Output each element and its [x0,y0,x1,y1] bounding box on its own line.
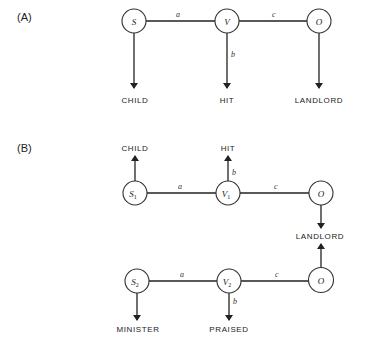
edge-label-b: b [233,297,237,306]
node-v: V [215,9,239,33]
edge-label-a: a [180,270,184,279]
concept-landlord: LANDLORD [295,96,343,105]
panel-a: (A) a c b S V O CHILD HIT LANDLORD [17,9,343,105]
edge-label-a: a [178,182,182,191]
edge-label-c: c [274,182,278,191]
edge-label-b: b [232,168,236,177]
node-v1-sub: 1 [227,194,230,200]
edge-label-b: b [231,50,235,59]
concept-hit: HIT [221,144,236,153]
concept-praised: PRAISED [209,325,248,334]
concept-hit: HIT [220,96,235,105]
node-o-bottom-text: O [318,276,325,286]
node-o-top-text: O [318,189,325,199]
diagram-canvas: (A) a c b S V O CHILD HIT LANDLORD (B) [0,0,369,348]
node-s-text: S [132,17,137,27]
node-s2: S2 [125,269,149,293]
panel-b-row-2: a c b S2 V2 O [116,244,333,334]
concept-child: CHILD [121,96,148,105]
node-o-bottom: O [309,268,334,293]
node-v2-sub: 2 [228,282,231,288]
panel-b: (B) a c b S1 V1 [17,142,344,334]
edge-label-a: a [176,10,180,19]
node-o-text: O [316,17,323,27]
panel-a-label: (A) [17,11,32,23]
edge-label-c: c [272,10,276,19]
node-v2: V2 [217,269,241,293]
edge-label-c: c [275,270,279,279]
panel-b-row-1: a c b S1 V1 O [121,144,333,228]
node-s2-sub: 2 [136,282,139,288]
node-v1: V1 [216,181,240,205]
node-o-top: O [309,181,333,205]
node-s: S [122,9,146,33]
node-o: O [307,9,331,33]
concept-landlord-shared: LANDLORD [296,232,344,241]
concept-child: CHILD [121,144,148,153]
node-s1-sub: 1 [134,194,137,200]
node-s1: S1 [123,181,147,205]
panel-b-label: (B) [17,142,32,154]
concept-minister: MINISTER [116,325,159,334]
